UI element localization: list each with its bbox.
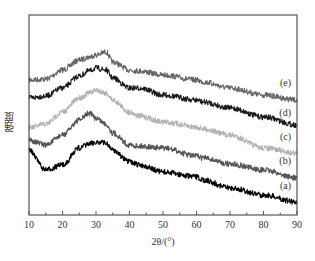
x-tick-label: 50 — [158, 219, 168, 230]
series-label: (c) — [280, 131, 291, 143]
series-label: (d) — [279, 107, 291, 119]
x-tick-label: 30 — [91, 219, 101, 230]
x-tick-label: 40 — [125, 219, 135, 230]
series-label: (e) — [280, 77, 291, 89]
x-axis-ticks: 102030405060708090 — [24, 211, 302, 230]
series-curve — [29, 140, 297, 204]
x-axis-label: 2θ/(°) — [151, 236, 174, 248]
x-tick-label: 60 — [192, 219, 202, 230]
series-label: (a) — [280, 180, 291, 192]
x-tick-label: 70 — [225, 219, 235, 230]
y-axis-label: 强度 — [4, 112, 16, 132]
x-tick-label: 10 — [24, 219, 34, 230]
x-tick-label: 20 — [58, 219, 68, 230]
xrd-chart: 102030405060708090 (e)(d)(c)(b)(a) 2θ/(°… — [0, 0, 315, 261]
series-label: (b) — [279, 155, 291, 167]
x-tick-label: 80 — [259, 219, 269, 230]
series-curves — [29, 50, 297, 204]
x-tick-label: 90 — [292, 219, 302, 230]
series-curve — [29, 88, 297, 155]
